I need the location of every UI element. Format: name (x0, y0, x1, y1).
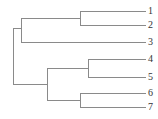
leaf-label-2: 2 (148, 20, 153, 30)
leaf-label-1: 1 (148, 6, 153, 16)
leaf-label-3: 3 (148, 37, 153, 47)
leaf-label-7: 7 (148, 102, 153, 112)
leaf-label-6: 6 (148, 88, 153, 98)
leaf-label-4: 4 (148, 54, 153, 64)
leaf-label-5: 5 (148, 72, 153, 82)
dendrogram (0, 0, 158, 119)
